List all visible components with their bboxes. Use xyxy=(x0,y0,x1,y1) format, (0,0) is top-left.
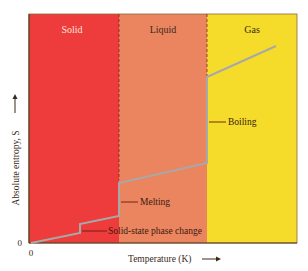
x-axis-arrow-icon xyxy=(202,257,221,262)
region-label-gas: Gas xyxy=(244,24,260,35)
region-label-liquid: Liquid xyxy=(150,24,177,35)
region-gas xyxy=(207,14,297,243)
annotation-melting: Melting xyxy=(140,197,170,207)
y-axis-arrow-icon xyxy=(13,94,18,113)
region-solid xyxy=(29,14,119,243)
annotation-solid-state-phase-change: Solid-state phase change xyxy=(108,226,202,236)
entropy-chart: Solid Liquid Gas Solid-state phase chang… xyxy=(0,0,308,271)
y-origin-label: 0 xyxy=(18,238,23,248)
region-liquid xyxy=(119,14,207,243)
x-origin-label: 0 xyxy=(29,248,34,258)
y-axis-label: Absolute entropy, S xyxy=(11,130,21,205)
region-label-solid: Solid xyxy=(61,24,82,35)
x-axis-label: Temperature (K) xyxy=(128,254,191,265)
annotation-boiling: Boiling xyxy=(228,117,257,127)
